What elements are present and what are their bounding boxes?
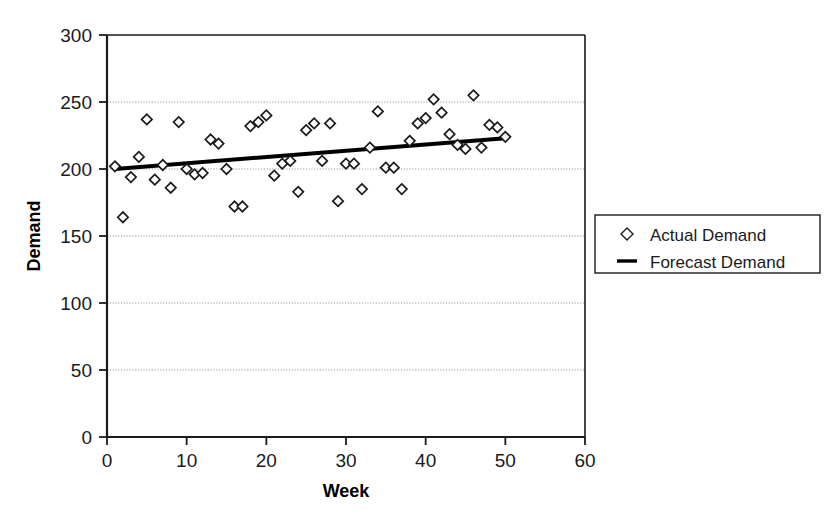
x-axis-title: Week — [323, 481, 371, 501]
x-tick-label-20: 20 — [256, 450, 277, 471]
y-axis-title: Demand — [24, 200, 44, 271]
legend-label-forecast-demand: Forecast Demand — [650, 253, 785, 272]
x-tick-label-10: 10 — [176, 450, 197, 471]
x-tick-label-40: 40 — [415, 450, 436, 471]
x-tick-label-50: 50 — [495, 450, 516, 471]
y-tick-label-300: 300 — [60, 25, 92, 46]
y-tick-label-200: 200 — [60, 159, 92, 180]
chart-container: 050100150200250300 0102030405060 Demand … — [0, 0, 831, 526]
chart-legend: Actual Demand Forecast Demand — [595, 215, 820, 273]
x-tick-label-30: 30 — [335, 450, 356, 471]
demand-forecast-scatter-chart: 050100150200250300 0102030405060 Demand … — [0, 0, 831, 526]
x-tick-label-60: 60 — [574, 450, 595, 471]
legend-label-actual-demand: Actual Demand — [650, 226, 766, 245]
x-tick-label-0: 0 — [102, 450, 113, 471]
y-tick-label-0: 0 — [81, 427, 92, 448]
y-tick-label-150: 150 — [60, 226, 92, 247]
y-tick-label-250: 250 — [60, 92, 92, 113]
y-tick-label-50: 50 — [71, 360, 92, 381]
y-tick-label-100: 100 — [60, 293, 92, 314]
